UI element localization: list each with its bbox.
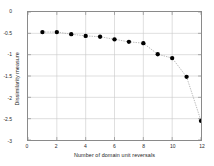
data-point (98, 35, 102, 39)
x-tick-label: 6 (113, 144, 116, 149)
data-point (69, 32, 73, 36)
data-point (156, 52, 160, 56)
x-tick-label: 4 (84, 144, 87, 149)
y-tick-label: 0 (9, 9, 12, 14)
x-tick-label: 12 (199, 144, 205, 149)
y-tick-label: -2 (8, 95, 12, 100)
y-tick-label: -2.5 (3, 117, 12, 122)
y-tick-label: -1.5 (3, 74, 12, 79)
series-line (42, 32, 201, 121)
data-series-layer (28, 12, 201, 140)
chart-figure: 0-0.5-1-1.5-2-2.5-3 024681012 Number of … (0, 0, 214, 166)
plot-area (27, 11, 202, 141)
y-tick-label: -3 (8, 139, 12, 144)
x-tick-label: 2 (55, 144, 58, 149)
data-point (170, 56, 174, 60)
y-tick-label: -1 (8, 52, 12, 57)
data-point (184, 75, 188, 79)
x-tick-label: 10 (170, 144, 176, 149)
data-point (55, 30, 59, 34)
y-tick-label: -0.5 (3, 30, 12, 35)
data-point (83, 34, 87, 38)
data-point (40, 30, 44, 34)
data-point (141, 41, 145, 45)
x-axis-title: Number of domain unit reversals (27, 153, 202, 158)
x-tick-label: 8 (142, 144, 145, 149)
y-axis-title: Dissimilarity measure (15, 34, 20, 124)
data-point (199, 119, 201, 123)
x-tick-label: 0 (26, 144, 29, 149)
data-point (112, 37, 116, 41)
data-point (127, 40, 131, 44)
